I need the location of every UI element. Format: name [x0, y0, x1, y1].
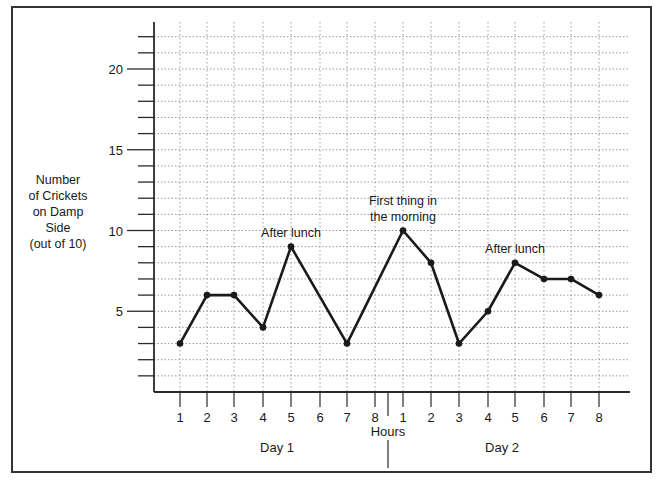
- data-point: [568, 276, 575, 283]
- x-tick-label: 1: [176, 410, 183, 425]
- annotation-label: After lunch: [485, 242, 545, 256]
- x-tick-label: 5: [511, 410, 518, 425]
- line-chart: 51015201234567812345678 After lunchFirst…: [0, 0, 660, 481]
- data-point: [260, 324, 267, 331]
- day1-label: Day 1: [260, 440, 294, 455]
- data-point: [485, 308, 492, 315]
- x-tick-label: 6: [316, 410, 323, 425]
- day2-label: Day 2: [485, 440, 519, 455]
- x-tick-label: 2: [203, 410, 210, 425]
- y-tick-label: 15: [109, 143, 123, 158]
- data-point: [177, 340, 184, 347]
- x-tick-label: 3: [230, 410, 237, 425]
- data-point: [596, 292, 603, 299]
- axes: 51015201234567812345678: [109, 22, 630, 468]
- y-tick-label: 10: [109, 224, 123, 239]
- x-tick-label: 6: [540, 410, 547, 425]
- data-point: [428, 260, 435, 267]
- data-point: [204, 292, 211, 299]
- annotation-label: the morning: [370, 210, 436, 224]
- x-tick-label: 3: [455, 410, 462, 425]
- data-point: [512, 260, 519, 267]
- x-tick-label: 1: [399, 410, 406, 425]
- data-point: [231, 292, 238, 299]
- y-tick-label: 5: [116, 304, 123, 319]
- annotation-label: After lunch: [261, 226, 321, 240]
- data-point: [400, 227, 407, 234]
- data-point: [456, 340, 463, 347]
- x-tick-label: 4: [484, 410, 491, 425]
- x-tick-label: 7: [567, 410, 574, 425]
- x-tick-label: 5: [287, 410, 294, 425]
- data-point: [344, 340, 351, 347]
- x-tick-label: 4: [259, 410, 266, 425]
- x-tick-label: 2: [427, 410, 434, 425]
- data-point: [288, 243, 295, 250]
- x-tick-label: 8: [371, 410, 378, 425]
- x-tick-label: 8: [595, 410, 602, 425]
- annotation-label: First thing in: [369, 194, 437, 208]
- x-tick-label: 7: [343, 410, 350, 425]
- x-axis-label: Hours: [371, 424, 406, 439]
- y-tick-label: 20: [109, 62, 123, 77]
- data-point: [541, 276, 548, 283]
